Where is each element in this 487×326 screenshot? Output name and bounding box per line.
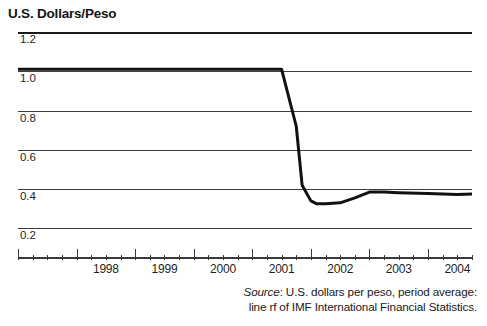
x-tick-minor [47, 255, 48, 260]
source-line-2: line rf of IMF International Financial S… [249, 300, 477, 313]
x-tick-minor [121, 255, 122, 260]
x-tick-minor [33, 255, 34, 260]
x-tick-minor [150, 255, 151, 260]
source-line-1: U.S. dollars per peso, period average: [286, 285, 477, 298]
x-tick-label-2000: 2000 [210, 262, 236, 276]
x-tick-major-2000 [194, 249, 195, 260]
x-tick-minor [413, 255, 414, 260]
x-tick-minor [326, 255, 327, 260]
x-tick-label-1999: 1999 [151, 262, 177, 276]
x-tick-minor [355, 255, 356, 260]
x-tick-major-1997 [18, 249, 19, 260]
x-tick-major-1998 [77, 249, 78, 260]
x-tick-minor [91, 255, 92, 260]
x-tick-major-2002 [311, 249, 312, 260]
x-tick-minor [208, 255, 209, 260]
x-tick-minor [179, 255, 180, 260]
x-tick-minor [340, 255, 341, 260]
x-tick-major-2003 [369, 249, 370, 260]
x-tick-minor [282, 255, 283, 260]
line-series-usd-per-peso [18, 69, 472, 204]
x-tick-minor [164, 255, 165, 260]
x-tick-minor [267, 255, 268, 260]
x-tick-minor [223, 255, 224, 260]
x-tick-minor [399, 255, 400, 260]
x-tick-major-1999 [135, 249, 136, 260]
x-tick-label-1998: 1998 [93, 262, 119, 276]
x-tick-label-2003: 2003 [386, 262, 412, 276]
x-tick-minor [472, 255, 473, 260]
x-tick-minor [296, 255, 297, 260]
x-tick-label-2002: 2002 [327, 262, 353, 276]
x-tick-minor [457, 255, 458, 260]
x-tick-minor [238, 255, 239, 260]
x-tick-minor [62, 255, 63, 260]
x-tick-major-2004 [428, 249, 429, 260]
x-tick-label-2004: 2004 [444, 262, 470, 276]
x-tick-minor [106, 255, 107, 260]
data-series-layer [18, 32, 472, 248]
chart-figure: U.S. Dollars/Peso 1.21.00.80.60.40.2 199… [0, 0, 487, 326]
x-tick-minor [384, 255, 385, 260]
chart-title: U.S. Dollars/Peso [8, 6, 116, 21]
plot-area: 1.21.00.80.60.40.2 [18, 32, 472, 248]
x-tick-major-2001 [252, 249, 253, 260]
source-note: Source: U.S. dollars per peso, period av… [167, 285, 477, 314]
x-axis-tick-labels: 1998199920002001200220032004 [18, 262, 472, 280]
x-tick-label-2001: 2001 [269, 262, 295, 276]
source-label: Source [244, 285, 280, 298]
x-axis-ticks [18, 248, 472, 260]
x-tick-minor [443, 255, 444, 260]
